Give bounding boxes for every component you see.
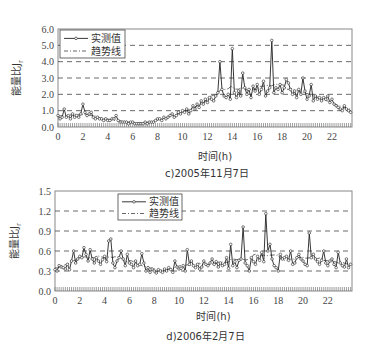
y-tick-label: 1.0 [42, 105, 55, 116]
data-point-marker [304, 90, 307, 93]
data-point-marker [192, 104, 195, 107]
y-tick-label: 1.2 [39, 206, 52, 217]
data-point-marker [265, 212, 268, 215]
data-point-marker [63, 108, 66, 111]
data-point-marker [134, 260, 137, 263]
figure-caption: d)2006年2月7日 [166, 330, 244, 342]
data-point-marker [194, 266, 197, 269]
legend: 实测值趋势线 [118, 194, 182, 220]
data-point-marker [64, 268, 67, 271]
data-point-marker [227, 267, 230, 270]
data-point-marker [200, 266, 203, 269]
data-point-marker [90, 111, 93, 114]
data-point-marker [89, 248, 92, 251]
y-axis-label: 能量比Jr [8, 223, 23, 259]
data-point-marker [291, 93, 294, 96]
data-point-marker [252, 260, 255, 263]
data-point-marker [349, 263, 352, 266]
data-point-marker [341, 109, 344, 112]
legend-trend-label: 趋势线 [91, 45, 121, 57]
data-point-marker [130, 263, 133, 266]
data-point-marker [81, 256, 84, 259]
data-point-marker [246, 264, 249, 267]
data-point-marker [99, 263, 102, 266]
data-point-marker [217, 91, 220, 94]
data-point-marker [256, 83, 259, 86]
data-point-marker [194, 108, 197, 111]
x-tick-label: 12 [202, 131, 212, 142]
data-point-marker [343, 266, 346, 269]
data-point-marker [202, 103, 205, 106]
data-point-marker [320, 100, 323, 103]
data-point-marker [66, 263, 69, 266]
figure-caption: c)2005年11月7日 [165, 167, 249, 179]
data-point-marker [287, 259, 290, 262]
x-tick-label: 16 [248, 295, 258, 306]
data-point-marker [213, 263, 216, 266]
y-tick-label: 4.0 [42, 56, 55, 67]
data-point-marker [91, 258, 94, 261]
data-point-marker [160, 119, 163, 122]
data-point-marker [203, 260, 206, 263]
data-point-marker [183, 111, 186, 114]
data-point-marker [300, 93, 303, 96]
data-point-marker [147, 266, 150, 269]
chart-panel-c: 0.01.02.03.04.05.06.00246810121416182022… [10, 24, 352, 180]
data-point-marker [68, 268, 71, 271]
data-point-marker [214, 95, 217, 98]
data-point-marker [211, 258, 214, 261]
data-point-marker [335, 266, 338, 269]
data-point-marker [269, 243, 272, 246]
data-point-marker [209, 262, 212, 265]
data-point-marker [277, 270, 280, 273]
legend-trend-label: 趋势线 [149, 207, 179, 219]
data-point-marker [310, 256, 313, 259]
x-axis-label: 时间(h) [198, 150, 232, 162]
data-point-marker [302, 77, 305, 80]
data-point-marker [77, 116, 80, 119]
data-point-marker [285, 78, 288, 81]
data-point-marker [188, 263, 191, 266]
data-point-marker [242, 226, 245, 229]
data-point-marker [347, 266, 350, 269]
data-point-marker [262, 80, 265, 83]
figure: 0.01.02.03.04.05.06.00246810121416182022… [0, 0, 376, 358]
data-point-marker [145, 270, 148, 273]
data-point-marker [256, 255, 259, 258]
x-tick-label: 12 [199, 295, 209, 306]
data-point-marker [141, 252, 144, 255]
data-point-marker [308, 95, 311, 98]
data-point-marker [206, 101, 209, 104]
data-point-marker [275, 266, 278, 269]
data-point-marker [204, 98, 207, 101]
data-point-marker [314, 258, 317, 261]
y-tick-label: 1.5 [39, 186, 52, 197]
data-point-marker [273, 91, 276, 94]
data-point-marker [184, 270, 187, 273]
data-point-marker [327, 95, 330, 98]
data-point-marker [190, 260, 193, 263]
data-point-marker [212, 100, 215, 103]
x-tick-label: 20 [302, 131, 312, 142]
data-point-marker [345, 258, 348, 261]
y-tick-label: 5.0 [42, 40, 55, 51]
data-point-marker [262, 260, 265, 263]
data-point-marker [343, 104, 346, 107]
data-point-marker [105, 260, 108, 263]
data-point-marker [260, 251, 263, 254]
legend: 实测值趋势线 [60, 30, 125, 58]
x-tick-label: 22 [323, 295, 333, 306]
data-point-marker [252, 85, 255, 88]
data-point-marker [316, 260, 319, 263]
x-tick-label: 0 [56, 131, 61, 142]
y-tick-label: 0.9 [39, 226, 52, 237]
data-point-marker [219, 262, 222, 265]
y-tick-label: 0.0 [39, 286, 52, 297]
data-point-marker [240, 258, 243, 261]
data-point-marker [110, 238, 113, 241]
y-tick-label: 0.6 [39, 246, 52, 257]
y-tick-label: 3.0 [42, 73, 55, 84]
data-point-marker [185, 108, 188, 111]
x-tick-label: 16 [252, 131, 262, 142]
data-point-marker [85, 253, 88, 256]
